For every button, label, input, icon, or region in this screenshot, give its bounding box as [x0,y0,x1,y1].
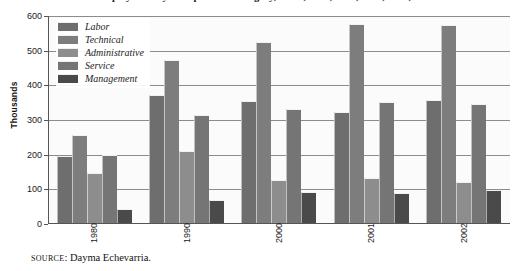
y-axis-tick-label: 0 [37,219,42,229]
y-axis-tick-label: 400 [27,80,42,90]
legend-label: Labor [85,21,109,32]
y-axis-tick-label: 600 [27,11,42,21]
bar[interactable] [456,182,471,224]
y-axis-tick-label: 300 [27,115,42,125]
legend-item: Technical [58,33,144,46]
y-axis-tick-label: 100 [27,184,42,194]
bar[interactable] [426,100,441,224]
legend-item: Service [58,59,144,72]
bar[interactable] [164,60,179,224]
legend-swatch [58,35,78,44]
legend-swatch [58,22,78,31]
y-axis-tick-label: 500 [27,46,42,56]
bar[interactable] [441,25,456,224]
source-prefix: SOURCE [31,254,64,263]
bar[interactable] [241,101,256,224]
bar[interactable] [117,209,132,224]
y-axis-line [48,16,49,224]
bar[interactable] [179,151,194,224]
chart-figure: Employment by Occupational Category, Cub… [0,0,531,271]
x-axis-tick-label: 1980 [74,228,114,238]
bar[interactable] [301,192,316,224]
bar[interactable] [334,112,349,224]
legend-label: Service [85,60,114,71]
source-text: Dayma Echevarria. [70,252,151,263]
bar[interactable] [194,115,209,224]
bar[interactable] [379,102,394,224]
legend-swatch [58,61,78,70]
bar[interactable] [256,42,271,224]
source-note: SOURCE: Dayma Echevarria. [31,252,151,263]
bar[interactable] [364,178,379,224]
y-axis-tick [44,224,48,225]
y-axis-label: Thousands [9,70,19,140]
bar-group [140,16,232,224]
bar[interactable] [87,173,102,224]
y-axis-tick-label: 200 [27,150,42,160]
bar[interactable] [286,109,301,224]
bar[interactable] [149,95,164,224]
legend-swatch [58,48,78,57]
bar[interactable] [271,180,286,224]
bar[interactable] [486,190,501,224]
bar[interactable] [209,200,224,224]
legend-label: Technical [85,34,124,45]
legend-label: Management [85,73,137,84]
legend-swatch [58,74,78,83]
bar[interactable] [394,193,409,224]
bar-group [325,16,417,224]
x-axis-tick-label: 2001 [351,228,391,238]
chart-legend: LaborTechnicalAdministrativeServiceManag… [56,18,150,88]
legend-item: Management [58,72,144,85]
x-axis-tick-label: 2000 [259,228,299,238]
bar[interactable] [349,24,364,224]
chart-title: Employment by Occupational Category, Cub… [0,0,531,3]
x-axis-tick-label: 2002 [444,228,484,238]
bar-group [418,16,510,224]
legend-label: Administrative [85,47,144,58]
bar-group [233,16,325,224]
legend-item: Administrative [58,46,144,59]
bar[interactable] [72,135,87,224]
bar[interactable] [57,156,72,224]
bar[interactable] [102,155,117,224]
x-axis-tick-label: 1990 [167,228,207,238]
legend-item: Labor [58,20,144,33]
bar[interactable] [471,104,486,224]
